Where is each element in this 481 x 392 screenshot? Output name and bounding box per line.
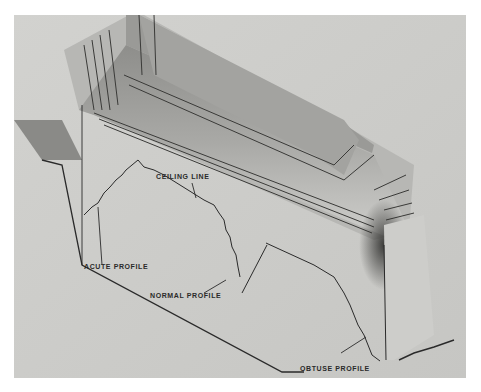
figure-caption-area: [0, 381, 481, 392]
normal-profile-label: NORMAL PROFILE: [150, 292, 221, 299]
acute-profile-label: ACUTE PROFILE: [84, 263, 148, 270]
cornice-photograph: CEILING LINE ACUTE PROFILE NORMAL PROFIL…: [14, 15, 466, 378]
ceiling-line-label: CEILING LINE: [156, 173, 209, 180]
obtuse-profile-label: OBTUSE PROFILE: [300, 365, 370, 372]
cornice-illustration: [14, 15, 466, 378]
